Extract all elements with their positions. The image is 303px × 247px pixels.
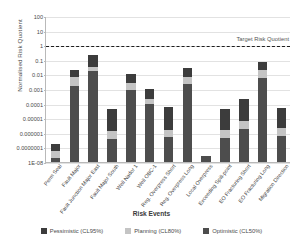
legend-optimistic[interactable]: Optimistic (CL50%) (203, 228, 262, 234)
legend-swatch-icon (203, 228, 209, 234)
bar-segment-optimistic (239, 129, 248, 162)
legend-swatch-icon (125, 228, 131, 234)
bar-stack (201, 156, 210, 162)
bar-stack (277, 108, 286, 162)
x-tick-label: Reg. Overpress Short (139, 163, 176, 208)
x-axis-tick-labels: Perm SealFault MajorFault Junction Major… (45, 163, 290, 211)
chart-root: Normalised Risk Quotient 1001010.10.010.… (0, 0, 303, 247)
bar-segment-planning (164, 130, 173, 137)
bar-stack (220, 109, 229, 162)
bar-segment-optimistic (107, 139, 116, 162)
bar-segment-pessimistic (70, 70, 79, 78)
legend-label: Planning (CL80%) (134, 228, 181, 234)
bar-stack (183, 68, 192, 162)
y-axis-title: Normalised Risk Quotient (16, 0, 23, 116)
y-tick-label: 1E-08 (28, 160, 43, 166)
y-tick-label: 100 (34, 14, 43, 20)
legend-pessimistic[interactable]: Pessimistic (CL95%) (41, 228, 103, 234)
x-axis-title: Risk Events (0, 210, 303, 217)
y-tick-label: 0.00001 (23, 116, 43, 122)
y-tick-label: 1 (40, 43, 43, 49)
legend-swatch-icon (41, 228, 47, 234)
y-tick-label: 0.01 (32, 72, 43, 78)
x-tick-label: Reg. Overpress Long (159, 163, 195, 207)
bar-segment-planning (126, 83, 135, 90)
bar-segment-pessimistic (220, 109, 229, 131)
bar-segment-optimistic (220, 138, 229, 162)
x-tick-label-wrapper: Reg. Overpress Short (139, 163, 176, 208)
y-tick-label: 0.0001 (26, 102, 43, 108)
bar-stack (51, 144, 60, 162)
bar-segment-optimistic (51, 158, 60, 162)
y-tick-label: 10 (37, 29, 43, 35)
bar-segment-optimistic (88, 71, 97, 162)
bar-segment-planning (258, 70, 267, 78)
bar-segment-pessimistic (126, 74, 135, 83)
bar-stack (239, 99, 248, 162)
bar-series-layer (46, 17, 290, 162)
bar-segment-optimistic (183, 84, 192, 162)
bar-stack (107, 109, 116, 162)
bar-stack (88, 55, 97, 162)
chart-legend: Pessimistic (CL95%)Planning (CL80%)Optim… (0, 228, 303, 234)
bar-segment-pessimistic (88, 55, 97, 66)
y-tick-label: 0.1 (35, 58, 43, 64)
bar-segment-planning (70, 77, 79, 86)
y-tick-label: 0.001 (29, 87, 43, 93)
bar-stack (145, 89, 154, 162)
bar-segment-pessimistic (239, 99, 248, 122)
bar-segment-pessimistic (145, 89, 154, 99)
bar-segment-optimistic (126, 90, 135, 162)
bar-stack (70, 70, 79, 162)
bar-segment-pessimistic (258, 62, 267, 70)
bar-segment-pessimistic (183, 68, 192, 77)
bar-stack (258, 62, 267, 162)
y-tick-label: 0.0000001 (17, 145, 43, 151)
bar-segment-planning (277, 128, 286, 136)
bar-segment-optimistic (164, 137, 173, 162)
legend-planning[interactable]: Planning (CL80%) (125, 228, 181, 234)
plot-area: 1001010.10.010.0010.00010.000010.0000010… (45, 17, 290, 163)
bar-segment-optimistic (70, 86, 79, 162)
bar-segment-planning (107, 131, 116, 138)
bar-segment-optimistic (201, 156, 210, 162)
bar-segment-pessimistic (277, 108, 286, 128)
legend-label: Pessimistic (CL95%) (50, 228, 103, 234)
bar-segment-planning (183, 77, 192, 85)
bar-stack (164, 107, 173, 162)
legend-label: Optimistic (CL50%) (212, 228, 262, 234)
bar-segment-optimistic (145, 104, 154, 162)
bar-segment-optimistic (277, 136, 286, 162)
y-tick-label: 0.000001 (20, 131, 43, 137)
bar-segment-pessimistic (107, 109, 116, 131)
x-tick-label-wrapper: Reg. Overpress Long (159, 163, 195, 207)
bar-stack (126, 74, 135, 162)
bar-segment-planning (220, 130, 229, 138)
bar-segment-planning (51, 151, 60, 158)
bar-segment-pessimistic (164, 107, 173, 129)
bar-segment-optimistic (258, 78, 267, 162)
bar-segment-planning (239, 121, 248, 129)
